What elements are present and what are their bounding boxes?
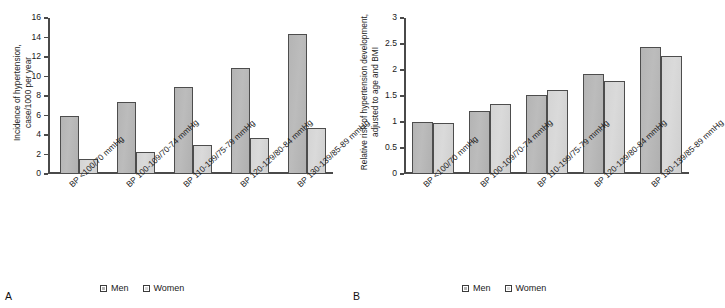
- panel-letter-a: A: [5, 290, 12, 302]
- y-tick-label-a-1: 2: [10, 149, 41, 159]
- y-tick-label-b-4: 2: [366, 64, 397, 74]
- chart-panel-a: Incidence of hypertension, case/1000 per…: [0, 0, 349, 308]
- legend-label-women-a: Women: [154, 283, 185, 293]
- women-swatch-icon: [143, 285, 150, 292]
- women-swatch-icon: [505, 285, 512, 292]
- men-swatch-icon: [100, 285, 107, 292]
- legend-item-women-a: Women: [143, 283, 185, 293]
- bar-b-men-4: [640, 47, 661, 174]
- y-tick-b-2: [400, 121, 404, 122]
- y-tick-a-5: [44, 76, 48, 77]
- y-tick-label-a-8: 16: [10, 12, 41, 22]
- y-tick-label-b-2: 1: [366, 116, 397, 126]
- legend-item-men-a: Men: [100, 283, 129, 293]
- y-tick-label-a-3: 6: [10, 110, 41, 120]
- legend-item-women-b: Women: [505, 283, 547, 293]
- y-tick-a-7: [44, 37, 48, 38]
- legend-label-men-b: Men: [473, 283, 491, 293]
- y-tick-a-1: [44, 154, 48, 155]
- y-tick-label-a-7: 14: [10, 32, 41, 42]
- y-tick-label-a-4: 8: [10, 90, 41, 100]
- plot-area-b: [404, 18, 689, 174]
- legend-b: Men Women: [462, 283, 546, 293]
- y-tick-b-6: [400, 17, 404, 18]
- legend-item-men-b: Men: [462, 283, 491, 293]
- y-tick-label-b-5: 2.5: [366, 38, 397, 48]
- y-tick-b-4: [400, 69, 404, 70]
- y-tick-label-b-0: 0: [366, 168, 397, 178]
- y-tick-label-b-6: 3: [366, 12, 397, 22]
- bar-group-container-b: [404, 18, 689, 174]
- y-tick-a-8: [44, 17, 48, 18]
- panel-letter-b: B: [353, 290, 360, 302]
- y-tick-a-2: [44, 134, 48, 135]
- plot-area-a: [48, 18, 333, 174]
- y-tick-a-3: [44, 115, 48, 116]
- y-tick-a-4: [44, 95, 48, 96]
- y-tick-b-1: [400, 147, 404, 148]
- y-tick-b-0: [400, 173, 404, 174]
- y-tick-label-b-1: 0.5: [366, 142, 397, 152]
- bar-a-men-0: [60, 116, 79, 174]
- bar-b-men-0: [412, 122, 433, 174]
- y-tick-label-a-0: 0: [10, 168, 41, 178]
- y-tick-a-6: [44, 56, 48, 57]
- y-tick-a-0: [44, 173, 48, 174]
- legend-label-men-a: Men: [111, 283, 129, 293]
- y-tick-b-3: [400, 95, 404, 96]
- y-tick-label-a-2: 4: [10, 129, 41, 139]
- y-tick-b-5: [400, 43, 404, 44]
- legend-label-women-b: Women: [516, 283, 547, 293]
- y-tick-label-b-3: 1.5: [366, 90, 397, 100]
- chart-panel-b: Relative risk of hypertension developmen…: [349, 0, 698, 308]
- men-swatch-icon: [462, 285, 469, 292]
- bar-a-men-4: [288, 34, 307, 174]
- y-tick-label-a-6: 12: [10, 51, 41, 61]
- legend-a: Men Women: [100, 283, 184, 293]
- bar-group-container-a: [48, 18, 333, 174]
- y-tick-label-a-5: 10: [10, 71, 41, 81]
